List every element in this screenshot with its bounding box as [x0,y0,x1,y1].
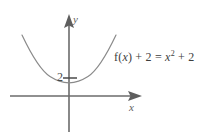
equation-equals-sign: = [155,50,162,64]
equation-annotation: f(x) + 2 = x2 + 2 [114,51,194,64]
equation-rhs-exponent: 2 [171,49,175,58]
equation-close-paren: ) [128,50,132,64]
x-axis-label: x [129,102,134,113]
equation-plus-right: + [178,50,185,64]
y-axis-label: y [73,14,78,25]
equation-lhs-offset: 2 [146,50,152,64]
equation-rhs-offset: 2 [188,50,194,64]
parabola-figure: y x 2 f(x) + 2 = x2 + 2 [0,0,216,132]
equation-plus-left: + [135,50,142,64]
graph-canvas [0,0,216,132]
y-tick-label-2: 2 [57,71,63,83]
